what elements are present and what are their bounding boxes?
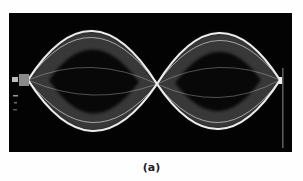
string-support-right: [279, 68, 284, 148]
figure-caption: (a): [0, 161, 303, 174]
standing-wave-photo: [9, 13, 292, 152]
string-driver-left: [12, 74, 29, 111]
standing-wave-graphic: [9, 13, 292, 152]
